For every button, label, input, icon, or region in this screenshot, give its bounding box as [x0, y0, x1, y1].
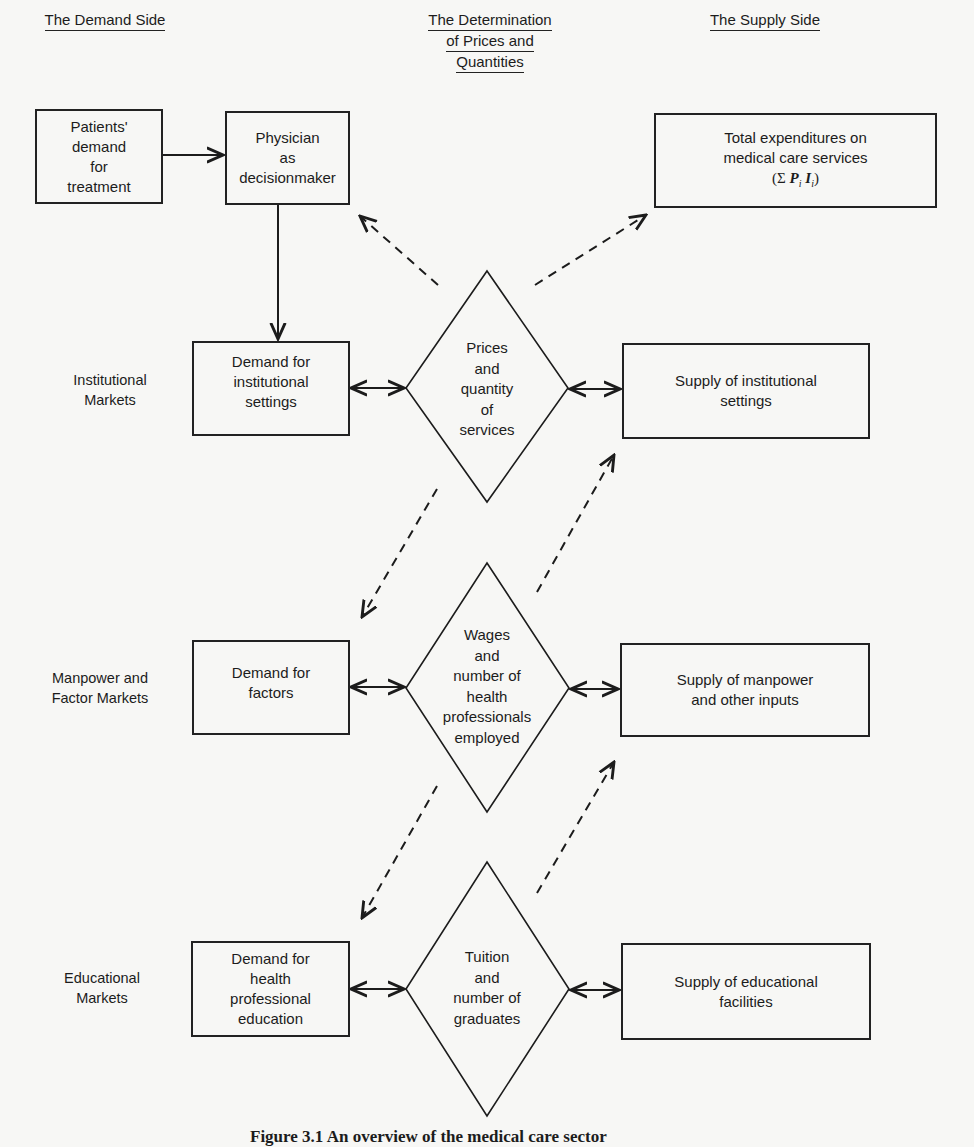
box-supply-educational: Supply of educational facilities [621, 943, 871, 1040]
figure-caption: Figure 3.1 An overview of the medical ca… [250, 1127, 607, 1147]
diamond-wages-number-text: Wages and number of health professionals… [422, 625, 552, 748]
wages-number-line4: health [422, 687, 552, 708]
tuition-graduates-line4: graduates [427, 1009, 547, 1030]
supply-manpower-line1: Supply of manpower [677, 670, 814, 690]
prices-quantity-line4: of [427, 400, 547, 421]
prices-quantity-line2: and [427, 359, 547, 380]
patients-demand-line1: Patients' [67, 117, 130, 137]
diamond-prices-quantity-text: Prices and quantity of services [427, 338, 547, 441]
physician-line2: as [239, 148, 336, 168]
diamond-tuition-graduates-text: Tuition and number of graduates [427, 947, 547, 1029]
demand-institutional-line1: Demand for [232, 352, 310, 372]
demand-education-line2: health [230, 969, 311, 989]
supply-institutional-line1: Supply of institutional [675, 371, 817, 391]
prices-quantity-line3: quantity [427, 379, 547, 400]
box-demand-institutional: Demand for institutional settings [192, 341, 350, 436]
physician-line1: Physician [239, 128, 336, 148]
demand-institutional-line3: settings [232, 392, 310, 412]
wages-number-line1: Wages [422, 625, 552, 646]
dashed-arrow-diamond1-to-demand-factors [362, 489, 437, 617]
supply-educational-line2: facilities [674, 992, 817, 1012]
formula-close: ) [814, 170, 819, 186]
demand-factors-line1: Demand for [232, 663, 310, 683]
supply-educational-line1: Supply of educational [674, 972, 817, 992]
supply-manpower-line2: and other inputs [677, 690, 814, 710]
row-label-institutional: Institutional Markets [40, 370, 180, 410]
formula-open: (Σ [772, 170, 789, 186]
demand-education-line3: professional [230, 989, 311, 1009]
wages-number-line5: professionals [422, 707, 552, 728]
box-demand-education: Demand for health professional education [191, 941, 350, 1037]
tuition-graduates-line2: and [427, 968, 547, 989]
total-expenditures-line1: Total expenditures on [723, 128, 867, 148]
box-supply-institutional: Supply of institutional settings [622, 343, 870, 439]
demand-institutional-line2: institutional [232, 372, 310, 392]
row-label-manpower: Manpower and Factor Markets [30, 668, 170, 708]
box-demand-factors: Demand for factors [192, 640, 350, 735]
total-expenditures-line2: medical care services [723, 148, 867, 168]
dashed-arrow-diamond2-to-supply-inst [537, 455, 614, 592]
formula-p: P [790, 170, 799, 186]
physician-line3: decisionmaker [239, 168, 336, 188]
supply-institutional-line2: settings [675, 391, 817, 411]
box-physician: Physician as decisionmaker [225, 111, 350, 205]
tuition-graduates-line1: Tuition [427, 947, 547, 968]
wages-number-line3: number of [422, 666, 552, 687]
dashed-arrow-diamond1-to-total-expenditures [535, 215, 646, 285]
patients-demand-line3: for [67, 157, 130, 177]
patients-demand-line4: treatment [67, 177, 130, 197]
prices-quantity-line5: services [427, 420, 547, 441]
wages-number-line6: employed [422, 728, 552, 749]
dashed-arrow-diamond3-to-supply-manpower [537, 762, 614, 893]
demand-factors-line2: factors [232, 683, 310, 703]
row-label-educational-line1: Educational [32, 968, 172, 988]
row-label-educational: Educational Markets [32, 968, 172, 1008]
tuition-graduates-line3: number of [427, 988, 547, 1009]
box-supply-manpower: Supply of manpower and other inputs [620, 643, 870, 737]
box-total-expenditures: Total expenditures on medical care servi… [654, 113, 937, 208]
total-expenditures-formula: (Σ Pi Ii) [723, 168, 867, 194]
row-label-institutional-line1: Institutional [40, 370, 180, 390]
row-label-educational-line2: Markets [32, 988, 172, 1008]
row-label-manpower-line1: Manpower and [30, 668, 170, 688]
dashed-arrow-diamond2-to-demand-education [362, 786, 437, 918]
demand-education-line4: education [230, 1009, 311, 1029]
dashed-arrow-diamond1-to-physician [360, 216, 438, 285]
box-patients-demand: Patients' demand for treatment [35, 109, 163, 204]
demand-education-line1: Demand for [230, 949, 311, 969]
prices-quantity-line1: Prices [427, 338, 547, 359]
patients-demand-line2: demand [67, 137, 130, 157]
formula-p-sub: i [799, 178, 802, 189]
row-label-institutional-line2: Markets [40, 390, 180, 410]
row-label-manpower-line2: Factor Markets [30, 688, 170, 708]
wages-number-line2: and [422, 646, 552, 667]
